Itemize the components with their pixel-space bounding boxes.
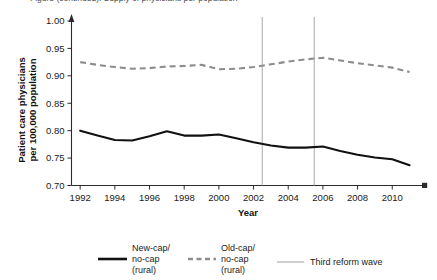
x-axis-end-marker-icon [422,183,427,188]
y-tick-label: 0.70 [46,180,65,191]
legend-label-old-cap-line2: no-cap [221,254,249,264]
y-tick-label: 0.90 [46,70,65,81]
x-tick-label: 2002 [243,192,264,203]
y-tick-label: 0.80 [46,125,65,136]
y-tick-label: 1.00 [46,15,65,26]
cut-off-caption: Figure (continued). Supply of physicians… [30,0,280,3]
y-tick-label: 0.75 [46,152,65,163]
legend-item-third-reform-wave[interactable]: Third reform wave [277,257,383,267]
series-old-cap-no-cap-rural [80,58,409,72]
x-tick-label: 1998 [174,192,195,203]
x-tick-label: 1992 [70,192,91,203]
x-tick-label: 1994 [104,192,125,203]
x-tick-label: 1996 [139,192,160,203]
legend-label-new-cap-line2: no-cap [132,254,160,264]
legend-label-old-cap-line3: (rural) [221,265,245,275]
legend-label-third-reform-wave: Third reform wave [310,257,383,267]
x-tick-label: 2006 [312,192,333,203]
x-axis-title: Year [238,207,258,218]
y-axis-title-line1: Patient care physicians [16,57,27,163]
legend-item-new-cap[interactable]: New-cap/ no-cap (rural) [98,243,171,275]
x-tick-label: 2004 [278,192,299,203]
axes [69,14,428,188]
figure-container: Figure (continued). Supply of physicians… [0,0,437,280]
reference-lines [262,17,314,186]
x-tick-label: 2008 [347,192,368,203]
legend-label-new-cap-line1: New-cap/ [132,243,171,253]
y-axis-ticks: 0.700.750.800.850.900.951.00 [46,15,72,191]
legend-label-new-cap-line3: (rural) [132,265,156,275]
x-tick-label: 2000 [208,192,229,203]
y-axis-title-line2: per 100,000 population [27,58,38,161]
x-axis-ticks: 1992199419961998200020022004200620082010 [70,186,403,203]
y-tick-label: 0.95 [46,43,65,54]
series-new-cap-no-cap-rural [80,131,409,166]
x-tick-label: 2010 [382,192,403,203]
y-tick-label: 0.85 [46,98,65,109]
legend-label-old-cap-line1: Old-cap/ [221,243,256,253]
chart-legend: New-cap/ no-cap (rural) Old-cap/ no-cap … [98,243,383,275]
line-chart: Patient care physicians per 100,000 popu… [0,0,437,280]
legend-item-old-cap[interactable]: Old-cap/ no-cap (rural) [188,243,256,275]
y-axis-title: Patient care physicians per 100,000 popu… [16,57,38,163]
